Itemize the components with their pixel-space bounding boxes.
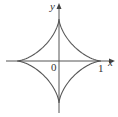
origin-label: 0	[51, 61, 57, 73]
x-tick-label: 1	[98, 62, 104, 74]
y-axis-label: y	[49, 0, 55, 12]
y-axis-arrow-icon	[57, 3, 62, 9]
x-axis-label: x	[107, 56, 113, 68]
astroid-figure: y x 0 1	[0, 0, 118, 117]
astroid-diagram: y x 0 1	[0, 0, 118, 117]
